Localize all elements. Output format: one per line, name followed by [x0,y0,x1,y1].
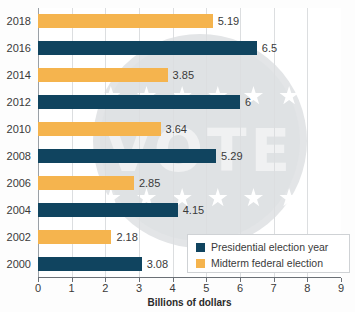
x-tick-label: 7 [262,282,286,294]
legend-swatch [196,259,205,268]
bar-value-label: 3.08 [147,258,168,270]
bar-2004[interactable]: 4.15 [38,203,178,217]
y-axis-label-2006: 2006 [7,169,31,196]
bar-row[interactable]: 5.29 [38,143,341,170]
x-axis-tick-labels: 0123456789 [0,282,355,296]
bar-value-label: 2.18 [116,231,137,243]
y-axis-label-2016: 2016 [7,35,31,62]
y-axis-label-2012: 2012 [7,89,31,116]
y-axis-labels: 2018201620142012201020082006200420022000 [0,8,36,277]
bar-2012[interactable]: 6 [38,95,240,109]
x-tick-label: 1 [60,282,84,294]
bar-value-label: 4.15 [183,204,204,216]
legend-item[interactable]: Midterm federal election [196,256,341,270]
bar-2008[interactable]: 5.29 [38,149,216,163]
y-axis-label-2008: 2008 [7,143,31,170]
legend-label: Presidential election year [211,241,328,253]
bar-value-label: 5.29 [221,150,242,162]
bar-value-label: 3.64 [166,123,187,135]
bar-2014[interactable]: 3.85 [38,68,168,82]
bar-2000[interactable]: 3.08 [38,257,142,271]
y-axis-label-2002: 2002 [7,223,31,250]
chart-legend: Presidential election yearMidterm federa… [187,234,350,273]
legend-label: Midterm federal election [211,257,323,269]
bar-2016[interactable]: 6.5 [38,41,257,55]
bar-value-label: 6.5 [262,42,277,54]
y-axis-label-2010: 2010 [7,116,31,143]
x-tick-label: 3 [127,282,151,294]
bar-value-label: 3.85 [173,69,194,81]
bar-2006[interactable]: 2.85 [38,176,134,190]
bar-value-label: 2.85 [139,177,160,189]
bar-row[interactable]: 5.19 [38,8,341,35]
chart-root: 2018201620142012201020082006200420022000… [0,0,355,312]
bar-2010[interactable]: 3.64 [38,122,161,136]
x-tick-label: 8 [295,282,319,294]
bar-value-label: 5.19 [218,15,239,27]
legend-item[interactable]: Presidential election year [196,240,341,254]
bar-row[interactable]: 4.15 [38,196,341,223]
x-tick-label: 4 [161,282,185,294]
bar-row[interactable]: 3.85 [38,62,341,89]
bar-value-label: 6 [245,96,251,108]
bar-2002[interactable]: 2.18 [38,230,111,244]
y-axis-label-2018: 2018 [7,8,31,35]
x-tick-label: 6 [228,282,252,294]
y-axis-label-2014: 2014 [7,62,31,89]
y-axis-label-2004: 2004 [7,196,31,223]
y-axis-label-2000: 2000 [7,250,31,277]
bar-row[interactable]: 2.85 [38,169,341,196]
bar-row[interactable]: 3.64 [38,116,341,143]
x-tick-label: 5 [194,282,218,294]
bar-row[interactable]: 6 [38,89,341,116]
bar-row[interactable]: 6.5 [38,35,341,62]
x-tick-label: 0 [26,282,50,294]
bar-2018[interactable]: 5.19 [38,14,213,28]
x-tick-label: 9 [329,282,353,294]
x-tick-label: 2 [93,282,117,294]
legend-swatch [196,243,205,252]
x-axis-title: Billions of dollars [38,297,341,308]
